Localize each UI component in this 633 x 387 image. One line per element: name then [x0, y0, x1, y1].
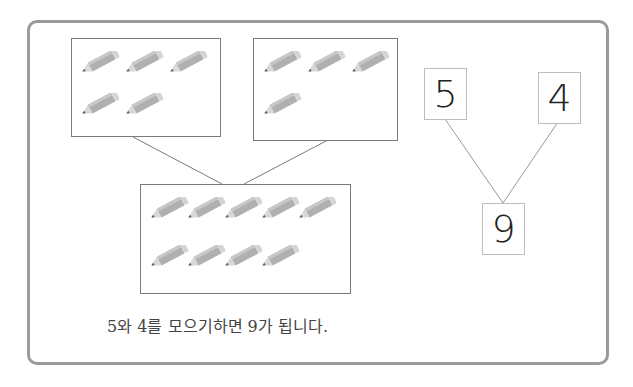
pencil-icon [348, 51, 392, 73]
group-box-right [253, 38, 398, 141]
pencil-icon [78, 93, 122, 115]
pencil-icon [260, 51, 304, 73]
number-box-part1: 5 [424, 68, 467, 120]
pencil-icon [295, 197, 339, 219]
number-box-whole: 9 [482, 203, 525, 255]
group-box-total [140, 184, 351, 294]
pencil-icon [78, 51, 122, 73]
pencil-icon [258, 245, 302, 267]
pencil-icon [304, 51, 348, 73]
pencil-icon [122, 51, 166, 73]
pencil-icon [122, 93, 166, 115]
number-box-part2: 4 [538, 72, 581, 124]
pencil-icon [166, 51, 210, 73]
group-box-left [71, 38, 221, 137]
caption-text: 5와 4를 모으기하면 9가 됩니다. [107, 313, 328, 337]
pencil-icon [260, 93, 304, 115]
